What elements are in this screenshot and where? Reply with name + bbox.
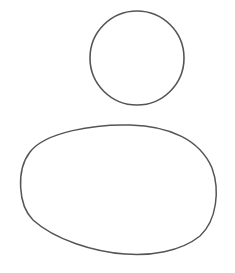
head-circle [90,11,184,105]
body-oval [21,125,217,255]
user-sketch-icon [0,0,235,273]
